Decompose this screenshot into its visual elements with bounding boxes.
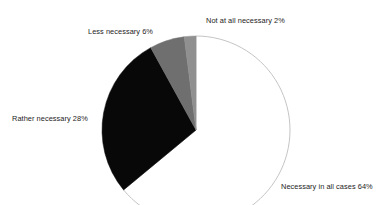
pie-label-less-necessary: Less necessary 6%	[88, 27, 153, 36]
pie-label-rather-necessary: Rather necessary 28%	[12, 114, 88, 123]
pie-chart-figure: Not at all necessary 2% Less necessary 6…	[0, 0, 384, 205]
pie-label-necessary-in-all-cases: Necessary in all cases 64%	[281, 182, 373, 191]
pie-slices	[102, 36, 290, 205]
pie-label-not-at-all-necessary: Not at all necessary 2%	[206, 16, 285, 25]
pie-chart-canvas	[0, 0, 384, 205]
